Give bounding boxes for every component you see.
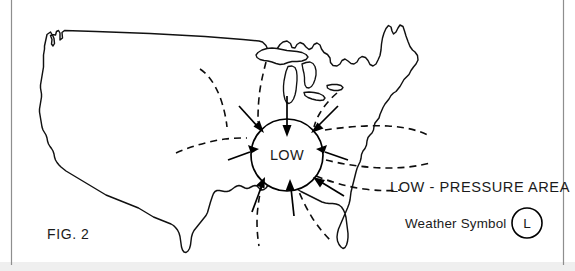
weather-map-illustration: Low-pressure area weather map of the con… [0,0,575,271]
legend-title: LOW - PRESSURE AREA [390,179,570,195]
figure-caption: FIG. 2 [47,226,90,242]
figure-2-weather-map: Low-pressure area weather map of the con… [0,0,575,271]
bottom-shading-band [0,262,575,271]
legend-symbol-label: Weather Symbol [405,216,507,231]
weather-symbol-glyph: L [523,216,531,231]
lake-ontario [327,85,343,91]
low-center-label: LOW [270,147,304,163]
